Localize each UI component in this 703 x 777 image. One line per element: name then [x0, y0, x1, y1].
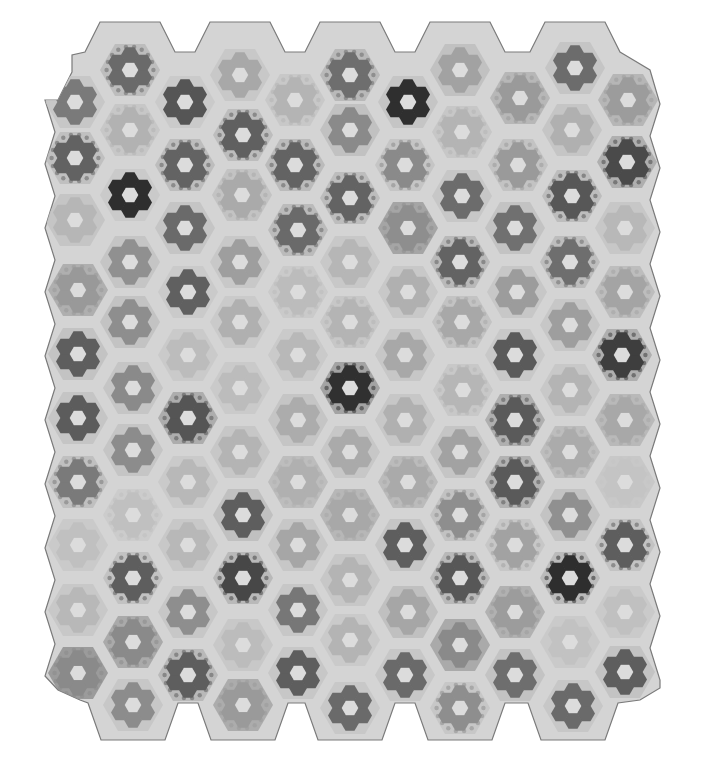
quilt-photo [0, 0, 703, 777]
quilt-canvas [0, 0, 703, 777]
